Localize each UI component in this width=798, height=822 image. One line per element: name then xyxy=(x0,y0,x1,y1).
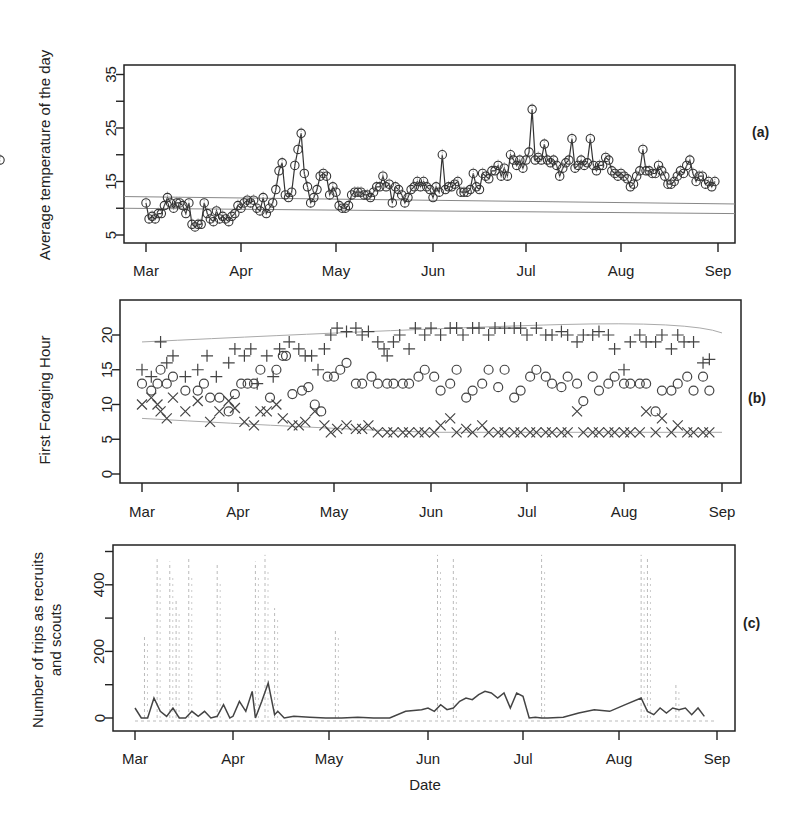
mean-hour-point xyxy=(288,390,297,399)
mean-hour-point xyxy=(516,386,525,395)
mean-hour-point xyxy=(657,386,666,395)
mean-hour-point xyxy=(478,379,487,388)
x-tick-label: Apr xyxy=(229,262,252,279)
mean-hour-point xyxy=(436,386,445,395)
mean-hour-point xyxy=(573,379,582,388)
earliest-hour-point xyxy=(271,400,281,410)
earliest-hour-point xyxy=(239,417,249,427)
earliest-hour-point xyxy=(168,393,178,403)
latest-hour-point xyxy=(306,350,318,362)
mean-hour-point xyxy=(557,383,566,392)
latest-hour-point xyxy=(656,329,668,341)
x-tick-label: Jun xyxy=(421,262,445,279)
latest-hour-point xyxy=(378,343,390,355)
latest-hour-point xyxy=(155,336,167,348)
earliest-hour-point xyxy=(193,396,203,406)
latest-hour-point xyxy=(618,364,630,376)
y-tick-label: 0 xyxy=(91,714,108,722)
panel-a-temperature: 5152535 MarAprMayJunJulAugSep Average te… xyxy=(0,49,769,279)
latest-hour-point xyxy=(515,322,527,334)
latest-hour-point xyxy=(634,329,646,341)
latest-hour-point xyxy=(521,329,533,341)
panel-c-trips: 0200400 MarAprMayJunJulAugSep Number of … xyxy=(29,545,760,793)
mean-hour-point xyxy=(389,379,398,388)
panel-b-tag: (b) xyxy=(748,390,766,406)
x-tick-label: Apr xyxy=(221,750,244,767)
latest-hour-point xyxy=(245,343,257,355)
mean-hour-point xyxy=(199,379,208,388)
latest-hour-point xyxy=(409,322,421,334)
latest-hour-point xyxy=(356,329,368,341)
mean-hour-point xyxy=(405,379,414,388)
latest-hour-point xyxy=(293,343,305,355)
mean-hour-point xyxy=(256,365,265,374)
latest-hour-point xyxy=(341,326,353,338)
latest-hour-point xyxy=(381,350,393,362)
mean-hour-point xyxy=(532,365,541,374)
y-tick-label: 15 xyxy=(98,361,115,378)
mean-hour-point xyxy=(642,379,651,388)
y-tick-label: 15 xyxy=(102,173,119,190)
panel-c-x-axis: MarAprMayJunJulAugSep xyxy=(122,731,730,767)
latest-hour-point xyxy=(609,343,621,355)
latest-hour-point xyxy=(546,329,558,341)
mean-hour-point xyxy=(452,365,461,374)
mean-hour-point xyxy=(563,372,572,381)
panel-c-y-axis: 0200400 xyxy=(91,552,114,723)
x-tick-label: Mar xyxy=(133,262,159,279)
mean-hour-point xyxy=(168,372,177,381)
mean-hour-point xyxy=(215,393,224,402)
latest-hour-point xyxy=(387,336,399,348)
latest-hour-point xyxy=(210,371,222,383)
mean-hour-point xyxy=(588,372,597,381)
y-tick-label: 200 xyxy=(91,639,108,664)
earliest-hour-point xyxy=(373,427,383,437)
latest-hour-point xyxy=(229,343,241,355)
mean-hour-point xyxy=(358,379,367,388)
x-tick-label: Sep xyxy=(709,503,736,520)
panel-b-x-axis: MarAprMayJunJulAugSep xyxy=(129,483,735,520)
latest-hour-point xyxy=(283,336,295,348)
latest-hour-point xyxy=(362,326,374,338)
latest-hour-point xyxy=(451,322,463,334)
earliest-hour-point xyxy=(445,413,455,423)
x-tick-label: Jul xyxy=(517,503,536,520)
latest-hour-point xyxy=(672,329,684,341)
latest-hour-point xyxy=(473,322,485,334)
x-tick-label: Mar xyxy=(129,503,155,520)
mean-hour-point xyxy=(579,397,588,406)
latest-hour-point xyxy=(483,329,495,341)
earliest-hour-point xyxy=(404,427,414,437)
upper-envelope-line xyxy=(142,324,722,342)
latest-hour-point xyxy=(624,336,636,348)
y-tick-label: 35 xyxy=(102,66,119,83)
earliest-hour-point xyxy=(262,406,272,416)
panel-b-scatter-series xyxy=(136,322,715,437)
latest-hour-point xyxy=(419,329,431,341)
panel-c-tag: (c) xyxy=(743,615,760,631)
recruit-trips-line xyxy=(135,683,704,718)
x-tick-label: Jul xyxy=(513,750,532,767)
mean-hour-point xyxy=(484,365,493,374)
mean-hour-point xyxy=(153,379,162,388)
mean-hour-point xyxy=(181,386,190,395)
latest-hour-point xyxy=(167,350,179,362)
latest-hour-point xyxy=(192,364,204,376)
x-tick-label: Jun xyxy=(416,750,440,767)
x-tick-label: Apr xyxy=(226,503,249,520)
mean-hour-point xyxy=(138,379,147,388)
latest-hour-point xyxy=(571,336,583,348)
latest-hour-point xyxy=(318,343,330,355)
earliest-hour-point xyxy=(641,406,651,416)
mean-hour-point xyxy=(594,386,603,395)
earliest-hour-point xyxy=(137,400,147,410)
panel-c-frame xyxy=(113,545,735,731)
latest-hour-point xyxy=(403,343,415,355)
x-tick-label: Sep xyxy=(705,262,732,279)
earliest-hour-point xyxy=(572,406,582,416)
mean-hour-point xyxy=(610,372,619,381)
latest-hour-point xyxy=(697,357,709,369)
earliest-hour-point xyxy=(657,413,667,423)
x-axis-title-date: Date xyxy=(409,776,441,793)
mean-hour-point xyxy=(689,386,698,395)
